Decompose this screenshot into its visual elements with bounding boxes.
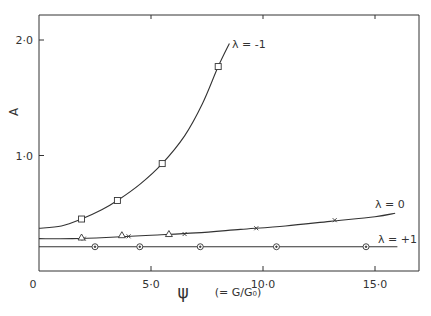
chart: 05·010·015·01·02·0 A ψ (= G/G₀) λ = -1λ …: [0, 0, 431, 316]
circle-marker-dot: [94, 246, 96, 248]
x-tick-label: 0: [30, 278, 37, 291]
circle-marker-dot: [365, 246, 367, 248]
triangle-marker: [118, 232, 125, 238]
circle-marker-dot: [139, 246, 141, 248]
x-tick-label: 5·0: [142, 278, 160, 291]
series-curve: [39, 43, 229, 228]
series-label: λ = +1: [378, 233, 417, 246]
x-axis-label-note: (= G/G₀): [215, 286, 261, 299]
square-marker: [215, 64, 221, 70]
y-tick-label: 1·0: [16, 150, 34, 163]
curves: [39, 43, 397, 246]
square-marker: [159, 161, 165, 167]
y-tick-label: 2·0: [16, 34, 34, 47]
series-label: λ = 0: [375, 198, 405, 211]
y-axis-label: A: [7, 107, 21, 116]
square-marker: [114, 198, 120, 204]
cross-marker: [333, 218, 337, 222]
x-tick-label: 15·0: [363, 278, 388, 291]
triangle-marker: [165, 231, 172, 237]
triangle-marker: [78, 234, 85, 240]
tick-labels: 05·010·015·01·02·0: [16, 34, 388, 291]
circle-marker-dot: [276, 246, 278, 248]
x-axis-label: ψ: [177, 282, 188, 302]
series-curve: [39, 213, 395, 238]
square-marker: [79, 216, 85, 222]
series-label: λ = -1: [232, 38, 266, 51]
plot-frame: [39, 15, 419, 271]
circle-marker-dot: [199, 246, 201, 248]
